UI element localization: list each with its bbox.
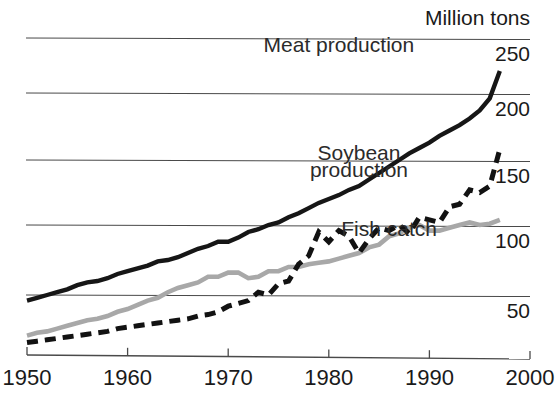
x-axis-label-1960: 1960 bbox=[103, 365, 152, 390]
x-axis-label-1970: 1970 bbox=[204, 365, 253, 390]
unit-label: Million tons bbox=[425, 6, 530, 29]
y-axis-label-100: 100 bbox=[495, 229, 530, 252]
chart-container: 50100150200250 195019601970198019902000 … bbox=[0, 0, 558, 410]
soybean-annotation-line2: production bbox=[310, 158, 408, 181]
meat-annotation: Meat production bbox=[264, 33, 415, 56]
y-axis-label-250: 250 bbox=[495, 42, 530, 65]
y-axis-label-150: 150 bbox=[495, 164, 530, 187]
chart-background bbox=[0, 0, 558, 410]
x-axis-label-1980: 1980 bbox=[304, 365, 353, 390]
y-axis-label-50: 50 bbox=[507, 299, 530, 322]
x-axis-label-2000: 2000 bbox=[506, 365, 555, 390]
x-axis-label-1950: 1950 bbox=[3, 365, 52, 390]
y-axis-label-200: 200 bbox=[495, 97, 530, 120]
line-chart: 50100150200250 195019601970198019902000 … bbox=[0, 0, 558, 410]
fish-annotation: Fish catch bbox=[341, 217, 437, 240]
x-axis-label-1990: 1990 bbox=[405, 365, 454, 390]
